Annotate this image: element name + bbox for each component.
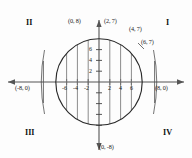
ytick-label-4: 4 xyxy=(89,57,92,63)
point-label-4-7: (4, 7) xyxy=(129,25,142,32)
quadrant-label-1: I xyxy=(166,18,169,27)
xtick-label-4: 4 xyxy=(119,85,122,91)
coordinate-plane-figure: (0, 8) (2, 7) (4, 7) (6, 7) (-8, 0) (8, … xyxy=(0,0,192,158)
quadrant-label-2: II xyxy=(26,18,32,27)
ytick-label-6: 6 xyxy=(89,46,92,52)
point-label-6-7: (6, 7) xyxy=(141,38,154,45)
point-label-neg8-0: (-8, 0) xyxy=(15,84,30,91)
xtick-label--2: -2 xyxy=(84,85,89,91)
xtick-label-6: 6 xyxy=(130,85,133,91)
xtick-label--4: -4 xyxy=(73,85,78,91)
xtick-label--6: -6 xyxy=(62,85,67,91)
point-label-8-0: (8, 0) xyxy=(155,84,168,91)
point-label-2-7: (2, 7) xyxy=(104,17,117,24)
xtick-label-2: 2 xyxy=(108,85,111,91)
quadrant-label-3: III xyxy=(25,128,35,137)
ytick-label-2: 2 xyxy=(89,68,92,74)
quadrant-label-4: IV xyxy=(163,128,172,137)
point-label-0-neg8: (0, -8) xyxy=(99,143,114,150)
y-axis xyxy=(96,20,101,150)
point-label-0-8: (0, 8) xyxy=(68,17,81,24)
